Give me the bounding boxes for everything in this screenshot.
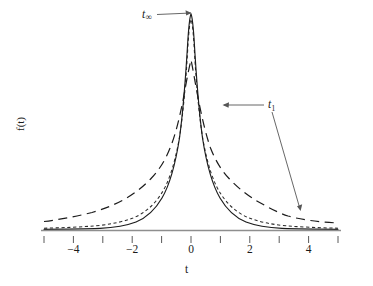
x-tick-label: 2: [235, 243, 265, 255]
annotation-arrow-t1-tail: [272, 112, 302, 211]
curve-t1-cauchy: [44, 60, 338, 223]
chart-figure: t∞ t1 f(t) t −4 −2 0 2 4: [0, 0, 373, 286]
x-axis-ticks: [44, 236, 338, 243]
curve-t-infinity-normal: [44, 14, 338, 229]
y-axis-label: f(t): [14, 102, 26, 146]
annotation-arrow-t-infinity: [157, 10, 192, 15]
annotation-label-t-infinity: t∞: [142, 9, 152, 21]
x-tick-label: −4: [58, 243, 88, 255]
x-tick-label: −2: [117, 243, 147, 255]
annotation-label-t1: t1: [268, 99, 275, 111]
x-tick-label: 0: [176, 243, 206, 255]
annotation-label-t1-subscript: 1: [272, 104, 276, 113]
annotation-label-t-infinity-base: t: [142, 8, 145, 20]
x-tick-label: 4: [294, 243, 324, 255]
annotation-arrow-t1-shoulder: [223, 102, 265, 108]
x-axis-label: t: [0, 263, 373, 275]
curve-t-intermediate: [44, 20, 338, 229]
annotation-label-t1-base: t: [268, 98, 271, 110]
annotation-label-t-infinity-subscript: ∞: [146, 12, 152, 22]
